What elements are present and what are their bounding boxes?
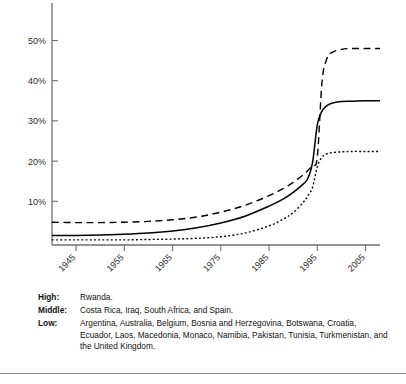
line-chart: 10%20%30%40%50% 194519551965197519851995… <box>0 0 406 290</box>
y-tick-label: 40% <box>28 76 46 86</box>
y-tick-label: 10% <box>28 197 46 207</box>
y-tick-label: 20% <box>28 157 46 167</box>
x-tick-label: 1995 <box>297 252 318 273</box>
figure: 10%20%30%40%50% 194519551965197519851995… <box>0 0 406 384</box>
y-tick-label: 50% <box>28 36 46 46</box>
series-line-high <box>52 48 380 222</box>
y-tick-label: 30% <box>28 116 46 126</box>
caption-label-low: Low: <box>38 318 80 330</box>
x-tick-label: 1955 <box>105 252 126 273</box>
x-tick-label: 2005 <box>346 252 367 273</box>
caption-label-middle: Middle: <box>38 305 80 317</box>
x-tick-label: 1945 <box>56 252 77 273</box>
x-axis-tick-labels: 1945195519651975198519952005 <box>56 252 367 273</box>
x-axis-tick-marks <box>76 245 365 251</box>
x-tick-label: 1985 <box>249 252 270 273</box>
y-axis-tick-labels: 10%20%30%40%50% <box>28 36 46 207</box>
caption-value-low: Argentina, Australia, Belgium, Bosnia an… <box>80 318 388 353</box>
chart-series-group <box>52 48 380 239</box>
chart-caption: High: Rwanda. Middle: Costa Rica, Iraq, … <box>38 292 388 354</box>
caption-value-middle: Costa Rica, Iraq, South Africa, and Spai… <box>80 305 388 317</box>
chart-plot-area: 10%20%30%40%50% 194519551965197519851995… <box>0 0 406 290</box>
caption-row-low: Low: Argentina, Australia, Belgium, Bosn… <box>38 318 388 353</box>
caption-value-high: Rwanda. <box>80 292 388 304</box>
series-line-middle <box>52 101 380 236</box>
footer-divider <box>0 373 406 374</box>
caption-row-middle: Middle: Costa Rica, Iraq, South Africa, … <box>38 305 388 317</box>
series-line-low <box>52 151 380 240</box>
x-tick-label: 1965 <box>153 252 174 273</box>
y-axis-tick-marks <box>52 41 58 202</box>
x-tick-label: 1975 <box>201 252 222 273</box>
caption-row-high: High: Rwanda. <box>38 292 388 304</box>
caption-label-high: High: <box>38 292 80 304</box>
